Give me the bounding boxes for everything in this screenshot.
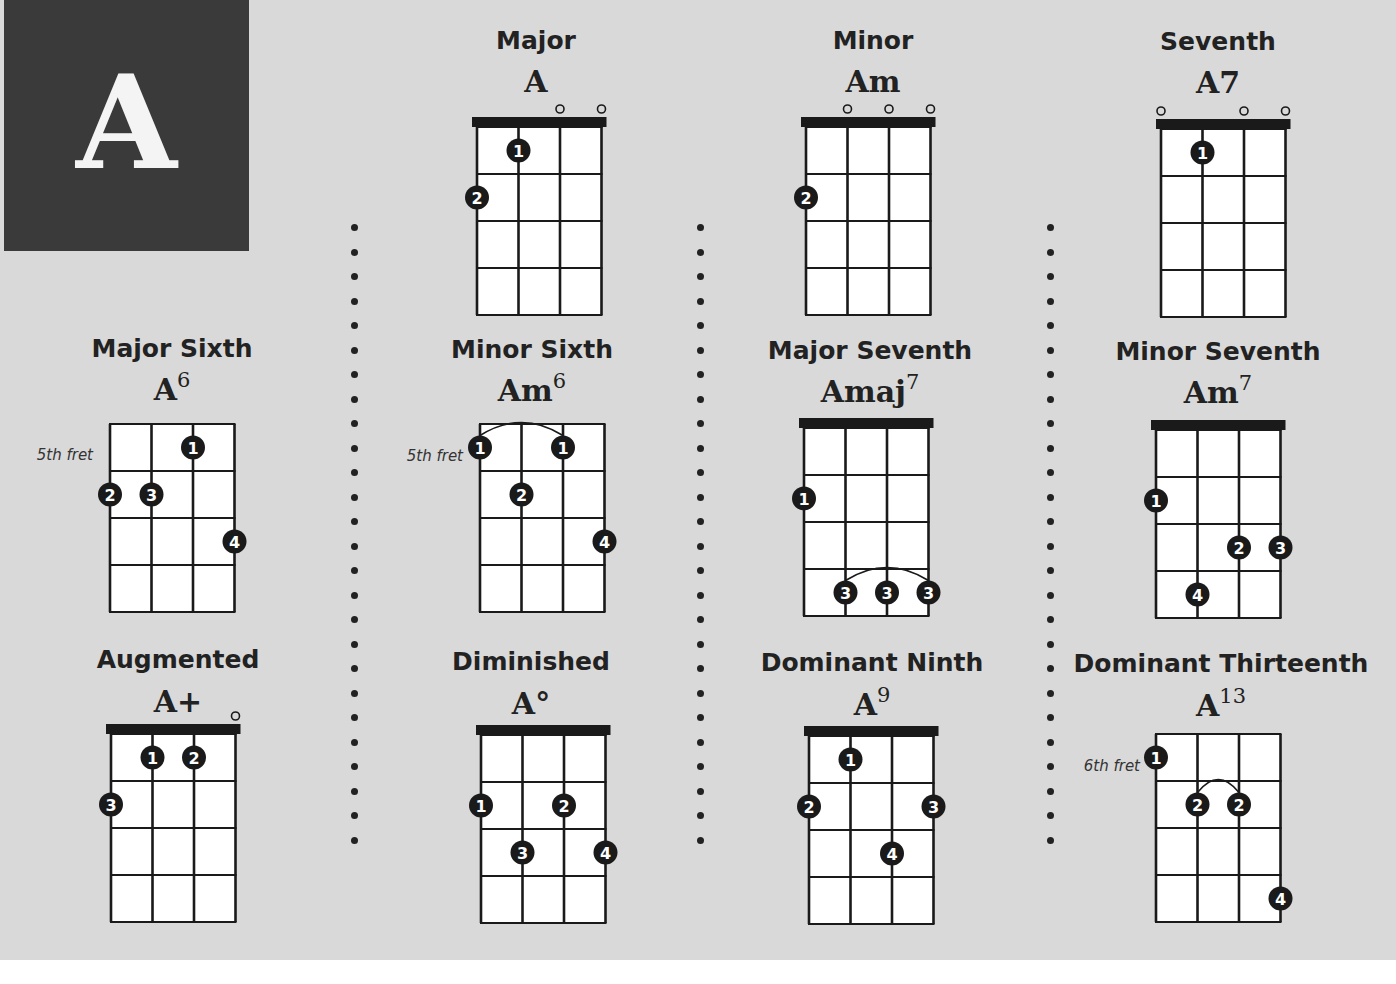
divider-dot <box>351 371 358 378</box>
chord-title: Major <box>496 26 576 55</box>
svg-text:1: 1 <box>475 797 486 816</box>
finger-dot: 1 <box>468 436 492 460</box>
finger-dot: 2 <box>1227 793 1251 817</box>
svg-text:1: 1 <box>147 749 158 768</box>
chord-symbol: Am7 <box>1184 375 1252 410</box>
chord-title: Minor Seventh <box>1115 337 1320 366</box>
finger-dot: 4 <box>223 530 247 554</box>
divider-dot <box>1047 322 1054 329</box>
divider-dot <box>1047 494 1054 501</box>
finger-dot: 1 <box>1191 141 1215 165</box>
svg-text:2: 2 <box>516 486 527 505</box>
chord-title: Major Seventh <box>768 336 972 365</box>
open-string-icon <box>927 105 935 113</box>
open-string-icon <box>598 105 606 113</box>
finger-dot: 1 <box>1144 746 1168 770</box>
divider-dot <box>351 567 358 574</box>
chord-title: Augmented <box>97 645 260 674</box>
divider-dot <box>351 469 358 476</box>
chord-title: Minor Sixth <box>451 335 613 364</box>
divider-dot <box>1047 347 1054 354</box>
svg-text:1: 1 <box>1197 144 1208 163</box>
divider-dot <box>697 812 704 819</box>
svg-text:3: 3 <box>928 798 939 817</box>
svg-text:3: 3 <box>517 844 528 863</box>
finger-dot: 1 <box>181 436 205 460</box>
divider-dot <box>351 641 358 648</box>
svg-text:1: 1 <box>187 439 198 458</box>
chord-title: Major Sixth <box>92 334 253 363</box>
finger-dot: 4 <box>1269 887 1293 911</box>
divider-dot <box>1047 763 1054 770</box>
svg-text:2: 2 <box>558 797 569 816</box>
fretboard-diagram: 1234 <box>90 404 255 632</box>
chord-chart-page: A Major A 12 Minor Am 2 Seventh A7 1 Maj… <box>0 0 1396 960</box>
divider-dot <box>1047 641 1054 648</box>
divider-dot <box>1047 567 1054 574</box>
divider-dot <box>351 249 358 256</box>
divider-dot <box>697 445 704 452</box>
divider-dot <box>697 396 704 403</box>
divider-dot <box>697 788 704 795</box>
svg-text:2: 2 <box>471 189 482 208</box>
chord-title: Dominant Thirteenth <box>1074 649 1369 678</box>
divider-dot <box>351 690 358 697</box>
column-divider-1 <box>351 224 359 844</box>
finger-dot: 4 <box>594 841 618 865</box>
svg-text:2: 2 <box>188 749 199 768</box>
chord-symbol: A <box>524 64 547 99</box>
divider-dot <box>697 518 704 525</box>
divider-dot <box>697 249 704 256</box>
divider-dot <box>1047 224 1054 231</box>
svg-text:4: 4 <box>1275 890 1286 909</box>
divider-dot <box>697 592 704 599</box>
chord-symbol: A6 <box>154 372 191 407</box>
column-divider-3 <box>1047 224 1055 844</box>
divider-dot <box>351 714 358 721</box>
divider-dot <box>351 445 358 452</box>
svg-text:2: 2 <box>803 798 814 817</box>
divider-dot <box>351 298 358 305</box>
fretboard-diagram: 1124 <box>460 404 625 632</box>
svg-text:2: 2 <box>104 486 115 505</box>
divider-dot <box>351 592 358 599</box>
chord-title: Seventh <box>1160 27 1276 56</box>
open-string-icon <box>885 105 893 113</box>
divider-dot <box>1047 837 1054 844</box>
finger-dot: 4 <box>880 842 904 866</box>
divider-dot <box>351 273 358 280</box>
finger-dot: 3 <box>875 581 899 605</box>
open-string-icon <box>1282 107 1290 115</box>
divider-dot <box>351 616 358 623</box>
svg-text:4: 4 <box>599 533 610 552</box>
divider-dot <box>1047 445 1054 452</box>
divider-dot <box>351 837 358 844</box>
fret-position-label: 5th fret <box>407 447 463 465</box>
divider-dot <box>697 420 704 427</box>
fret-position-label: 6th fret <box>1084 757 1140 775</box>
divider-dot <box>1047 396 1054 403</box>
divider-dot <box>697 641 704 648</box>
divider-dot <box>697 616 704 623</box>
svg-text:1: 1 <box>798 490 809 509</box>
finger-dot: 3 <box>140 483 164 507</box>
finger-dot: 3 <box>99 793 123 817</box>
finger-dot: 3 <box>511 841 535 865</box>
divider-dot <box>1047 298 1054 305</box>
fretboard-diagram: 1234 <box>461 715 626 943</box>
column-divider-2 <box>697 224 705 844</box>
svg-text:1: 1 <box>1150 749 1161 768</box>
chord-symbol: Am6 <box>498 373 566 408</box>
divider-dot <box>697 347 704 354</box>
open-string-icon <box>556 105 564 113</box>
divider-dot <box>697 690 704 697</box>
chord-symbol: Am <box>845 64 900 99</box>
finger-dot: 1 <box>792 487 816 511</box>
divider-dot <box>1047 371 1054 378</box>
svg-text:2: 2 <box>800 189 811 208</box>
fretboard-diagram: 1234 <box>1136 410 1301 638</box>
finger-dot: 1 <box>469 794 493 818</box>
open-string-icon <box>1157 107 1165 115</box>
divider-dot <box>351 763 358 770</box>
svg-text:4: 4 <box>600 844 611 863</box>
